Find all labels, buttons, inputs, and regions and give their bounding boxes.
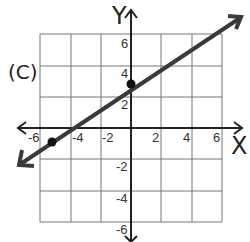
point-neg5-neg1: [48, 138, 57, 147]
y-tick: -2: [116, 159, 128, 174]
part-label: (C): [8, 60, 38, 84]
y-tick: 4: [121, 66, 128, 81]
x-tick: -6: [28, 130, 40, 145]
y-axis-label: Y: [112, 2, 127, 30]
x-tick: 4: [183, 130, 190, 145]
axes: [18, 10, 242, 242]
y-tick: 6: [121, 36, 128, 51]
x-tick: -4: [72, 130, 84, 145]
y-tick: 2: [121, 97, 128, 112]
x-tick: 6: [213, 130, 220, 145]
y-tick: -4: [116, 191, 128, 206]
y-tick: -6: [116, 222, 128, 237]
x-axis-label: X: [231, 132, 247, 160]
x-tick: 2: [152, 130, 159, 145]
x-tick: -2: [102, 130, 114, 145]
